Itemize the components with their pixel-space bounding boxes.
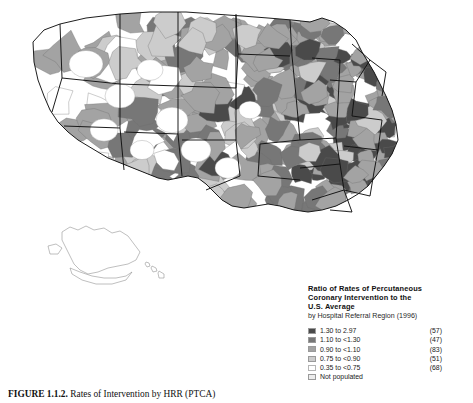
hrr-region[interactable]	[90, 119, 118, 141]
hrr-region[interactable]	[68, 186, 109, 224]
us-hrr-choropleth-map[interactable]	[0, 0, 473, 300]
legend-label-class-1-30-to-2-97: 1.30 to 2.97	[320, 327, 356, 335]
hrr-region[interactable]	[118, 182, 153, 216]
hrr-region[interactable]	[386, 162, 401, 178]
alaska-inset	[48, 226, 140, 284]
legend-row-class-1-30-to-2-97: 1.30 to 2.97(57)	[308, 327, 468, 335]
legend-class-list: 1.30 to 2.97(57)1.10 to <1.30(47)0.90 to…	[308, 327, 468, 381]
figure-caption-text: Rates of Intervention by HRR (PTCA)	[70, 389, 215, 399]
hrr-region[interactable]	[369, 37, 394, 57]
legend-row-class-not-populated: Not populated	[308, 373, 468, 381]
legend-label-class-0-75-to-0-90: 0.75 to <0.90	[320, 355, 360, 363]
hrr-region[interactable]	[156, 107, 188, 133]
hrr-region[interactable]	[130, 140, 154, 159]
legend-swatch-class-0-75-to-0-90	[308, 356, 316, 362]
hrr-region[interactable]	[369, 31, 387, 47]
map-panel	[0, 0, 473, 300]
legend-label-class-0-35-to-0-75: 0.35 to <0.75	[320, 364, 360, 372]
hrr-region[interactable]	[239, 101, 261, 119]
hrr-region[interactable]	[116, 187, 152, 222]
hrr-region[interactable]	[110, 167, 140, 204]
hrr-region[interactable]	[386, 41, 412, 63]
hrr-region[interactable]	[69, 50, 103, 77]
map-legend: Ratio of Rates of Percutaneous Coronary …	[308, 285, 468, 383]
legend-row-class-0-90-to-1-10: 0.90 to <1.10(83)	[308, 346, 468, 354]
legend-swatch-class-1-30-to-2-97	[308, 328, 316, 334]
legend-count-class-0-90-to-1-10: (83)	[430, 346, 468, 354]
hrr-region[interactable]	[165, 179, 195, 211]
hrr-region[interactable]	[102, 199, 133, 229]
hrr-region[interactable]	[73, 158, 105, 190]
legend-count-class-1-30-to-2-97: (57)	[430, 327, 468, 335]
legend-row-class-0-35-to-0-75: 0.35 to <0.75(68)	[308, 364, 468, 372]
figure-container: Ratio of Rates of Percutaneous Coronary …	[0, 0, 473, 403]
legend-row-class-0-75-to-0-90: 0.75 to <0.90(51)	[308, 355, 468, 363]
hrr-region[interactable]	[368, 42, 388, 58]
legend-swatch-class-1-10-to-1-30	[308, 337, 316, 343]
legend-row-class-1-10-to-1-30: 1.10 to <1.30(47)	[308, 336, 468, 344]
hrr-region[interactable]	[24, 123, 52, 150]
figure-caption-number: FIGURE 1.1.2.	[8, 389, 68, 399]
legend-label-class-not-populated: Not populated	[320, 373, 363, 381]
hrr-region[interactable]	[160, 189, 196, 218]
hrr-region[interactable]	[64, 153, 96, 193]
legend-swatch-class-not-populated	[308, 374, 316, 380]
hrr-region[interactable]	[137, 60, 163, 81]
legend-swatch-class-0-90-to-1-10	[308, 346, 316, 352]
legend-subtitle: by Hospital Referral Region (1996)	[308, 312, 468, 321]
legend-title-line-3: U.S. Average	[308, 303, 468, 312]
legend-count-class-1-10-to-1-30: (47)	[430, 336, 468, 344]
hrr-region[interactable]	[181, 138, 211, 162]
hrr-region[interactable]	[215, 158, 241, 179]
hrr-region[interactable]	[384, 52, 402, 69]
legend-count-class-0-75-to-0-90: (51)	[430, 355, 468, 363]
legend-count-class-0-35-to-0-75: (68)	[430, 364, 468, 372]
figure-caption: FIGURE 1.1.2. Rates of Intervention by H…	[8, 389, 408, 400]
hawaii-inset	[145, 262, 164, 278]
legend-label-class-1-10-to-1-30: 1.10 to <1.30	[320, 336, 360, 344]
hrr-region[interactable]	[342, 17, 362, 35]
hrr-region[interactable]	[171, 187, 201, 221]
legend-label-class-0-90-to-1-10: 0.90 to <1.10	[320, 346, 360, 354]
legend-swatch-class-0-35-to-0-75	[308, 365, 316, 371]
hrr-region[interactable]	[384, 65, 405, 90]
legend-title: Ratio of Rates of Percutaneous Coronary …	[308, 285, 468, 311]
